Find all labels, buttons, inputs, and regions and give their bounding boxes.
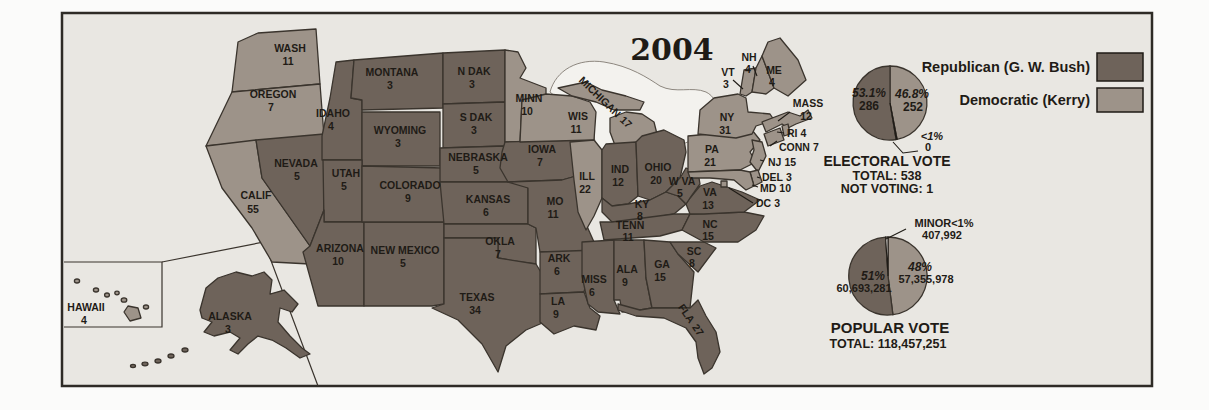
label-okla-votes: 7 — [495, 248, 501, 260]
label-new-mexico-votes: 5 — [400, 257, 406, 269]
label-nebraska-votes: 5 — [473, 164, 479, 176]
state-washington — [232, 29, 320, 92]
label-mass: MASS — [793, 97, 823, 109]
label-tenn: TENN — [616, 219, 645, 231]
label-ind-votes: 12 — [612, 176, 624, 188]
label-ill-votes: 22 — [579, 183, 591, 195]
label-tenn-votes: 11 — [622, 231, 633, 243]
label-wash-votes: 11 — [282, 55, 293, 67]
label-colorado: COLORADO — [379, 179, 440, 191]
aleutian-island — [155, 359, 161, 363]
hawaii-island — [105, 293, 110, 297]
label-ga: GA — [654, 258, 670, 270]
electoral-minor-votes: 0 — [925, 141, 931, 153]
legend-swatch-democratic — [1097, 88, 1143, 112]
popular-minor-label: MINOR<1% — [915, 217, 974, 229]
label-nc-votes: 15 — [702, 230, 714, 242]
popular-vote-total: TOTAL: 118,457,251 — [830, 337, 947, 351]
label-va-votes: 13 — [702, 199, 714, 211]
label-me-votes: 4 — [769, 76, 775, 88]
label-utah: UTAH — [332, 167, 360, 179]
state-colorado — [362, 166, 444, 222]
label-ny: NY — [720, 111, 735, 123]
label-wis-votes: 11 — [570, 123, 581, 135]
label-va: VA — [703, 186, 717, 198]
label-alaska-votes: 3 — [225, 323, 231, 335]
label-sc-votes: 8 — [689, 257, 695, 269]
label-arizona-votes: 10 — [332, 255, 344, 267]
label-okla: OKLA — [485, 235, 515, 247]
label-calif: CALIF — [241, 189, 272, 201]
aleutian-island — [182, 348, 188, 352]
label-w-va: W VA — [669, 175, 696, 187]
label-miss: MISS — [581, 273, 607, 285]
label-s-dak: S DAK — [460, 111, 493, 123]
legend-label-republican: Republican (G. W. Bush) — [922, 59, 1091, 75]
hawaii-island — [74, 279, 79, 283]
hawaii-island — [121, 298, 127, 302]
electoral-rep-votes: 286 — [859, 99, 879, 113]
label-nh-votes: 4 — [745, 63, 751, 75]
label-wyoming-votes: 3 — [395, 137, 401, 149]
label-nj-votes: 15 — [784, 156, 796, 168]
label-vt: VT — [721, 66, 735, 78]
electoral-rep-pct: 53.1% — [852, 86, 886, 100]
state-montana — [351, 53, 443, 110]
hawaii-island — [115, 291, 119, 295]
state-wyoming — [362, 112, 440, 166]
aleutian-island — [142, 362, 148, 366]
label-conn-name: CONN — [779, 141, 810, 153]
label-nj-name: NJ — [768, 156, 782, 168]
label-ri: RI4 — [787, 127, 807, 139]
label-mass-votes: 12 — [800, 110, 812, 122]
state-dc — [721, 181, 727, 187]
popular-minor-votes: 407,992 — [922, 229, 962, 241]
label-kansas: KANSAS — [466, 193, 510, 205]
election-map-svg: WASH 11 OREGON 7 CALIF 55 NEVADA 5 IDAHO… — [0, 0, 1209, 410]
figure-2004-election-map: WASH 11 OREGON 7 CALIF 55 NEVADA 5 IDAHO… — [0, 0, 1209, 410]
label-nh: NH — [741, 51, 756, 63]
legend-label-democratic: Democratic (Kerry) — [959, 92, 1090, 108]
label-nebraska: NEBRASKA — [448, 151, 508, 163]
label-nevada: NEVADA — [274, 157, 318, 169]
electoral-vote-not-voting: NOT VOTING: 1 — [841, 182, 933, 196]
label-nevada-votes: 5 — [294, 170, 300, 182]
label-md: MD10 — [760, 182, 791, 194]
popular-rep-pct: 51% — [861, 269, 885, 283]
label-new-mexico: NEW MEXICO — [371, 244, 440, 256]
popular-vote-heading: POPULAR VOTE — [831, 319, 949, 336]
label-oregon: OREGON — [250, 88, 297, 100]
electoral-dem-pct: 46.8% — [894, 87, 929, 101]
label-wyoming: WYOMING — [374, 124, 427, 136]
label-n-dak-votes: 3 — [469, 78, 475, 90]
popular-rep-votes: 60,693,281 — [836, 282, 891, 294]
label-mo: MO — [547, 195, 564, 207]
label-alaska: ALASKA — [208, 310, 252, 322]
label-calif-votes: 55 — [247, 203, 259, 215]
label-idaho: IDAHO — [316, 107, 350, 119]
label-w-va-votes: 5 — [677, 187, 683, 199]
label-ohio: OHIO — [645, 161, 672, 173]
label-n-dak: N DAK — [457, 65, 491, 77]
label-ri-votes: 4 — [801, 127, 807, 139]
label-ri-name: RI — [787, 127, 798, 139]
label-conn-votes: 7 — [813, 141, 819, 153]
aleutian-island — [168, 354, 174, 358]
label-dc-name: DC — [756, 197, 772, 209]
label-ohio-votes: 20 — [650, 174, 662, 186]
label-pa: PA — [705, 143, 719, 155]
label-texas: TEXAS — [459, 291, 494, 303]
label-iowa-votes: 7 — [537, 156, 543, 168]
label-ny-votes: 31 — [719, 124, 731, 136]
label-montana-votes: 3 — [387, 79, 393, 91]
label-ark-votes: 6 — [554, 265, 560, 277]
legend-swatch-republican — [1097, 53, 1143, 81]
label-md-name: MD — [760, 182, 777, 194]
label-texas-votes: 34 — [469, 304, 481, 316]
label-sc: SC — [687, 245, 702, 257]
label-colorado-votes: 9 — [405, 192, 411, 204]
electoral-dem-votes: 252 — [903, 100, 923, 114]
label-nc: NC — [702, 218, 718, 230]
label-hawaii-votes: 4 — [81, 314, 87, 326]
map-title: 2004 — [630, 32, 714, 67]
